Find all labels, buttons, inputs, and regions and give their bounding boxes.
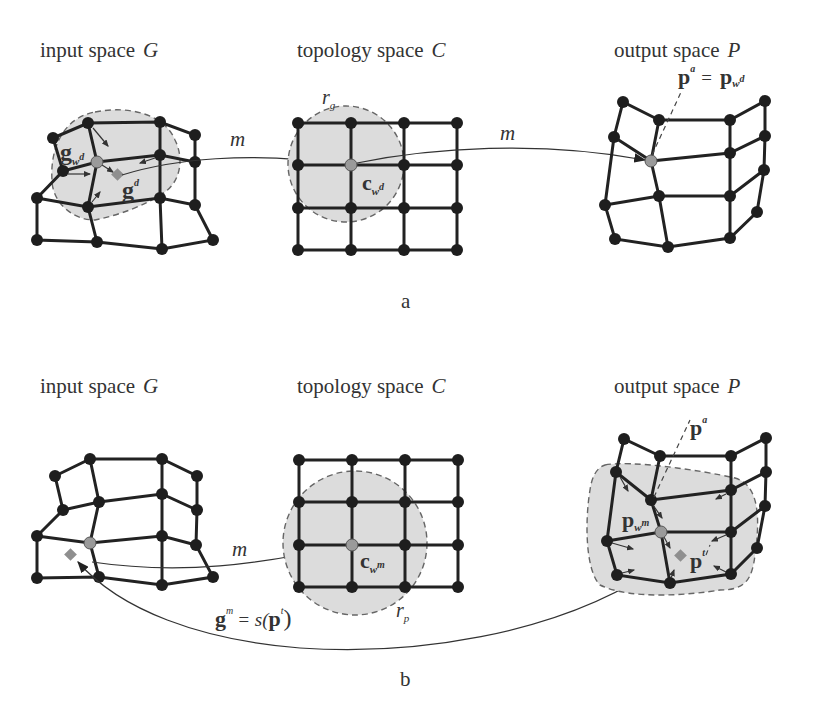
winner-node [345,159,357,171]
panel-b-input-title: input spaceG [40,374,158,398]
panel-a-output-mesh: pa=pwd [599,63,771,253]
winner-node [655,526,667,538]
panel-b-topology-title: topology spaceC [297,374,447,398]
label-m-a2: m [500,121,515,145]
panel-b-output-title: output spaceP [614,374,741,398]
panel-b-topology-grid: cwm rp [283,454,464,624]
winner-node [84,537,96,549]
panel-a: input spaceG topology spaceC output spac… [31,38,771,313]
label-g-m-eq: gm= s(pt) [215,605,292,631]
label-m-b: m [232,537,247,561]
panel-a-topology-grid: rg cwd [288,86,463,256]
panel-b-input-mesh [31,453,219,591]
winner-node [645,155,657,167]
som-mapping-diagram: input spaceG topology spaceC output spac… [0,0,817,716]
panel-a-topology-title: topology spaceC [297,38,447,62]
sample-diamond-icon [64,548,77,561]
winner-node [91,156,103,168]
panel-b: input spaceG topology spaceC output spac… [31,374,772,691]
label-r-g: rg [322,86,336,111]
panel-a-input-title: input spaceG [40,38,158,62]
label-p-a-eq: pa=pwd [678,63,746,89]
label-p-a: pa [690,414,707,440]
panel-b-caption: b [400,667,411,691]
panel-a-caption: a [401,289,411,313]
panel-b-output-mesh: pa pwm pt [587,414,772,595]
panel-a-input-mesh: gwd gd [31,110,219,255]
label-r-p: rp [396,599,410,624]
winner-node [346,539,358,551]
panel-a-output-title: output spaceP [614,38,741,62]
label-m-a1: m [230,127,245,151]
